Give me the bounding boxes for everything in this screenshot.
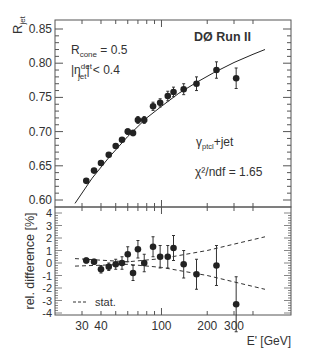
x-axis-label: E' [GeV]: [247, 334, 291, 348]
svg-text:3: 3: [46, 220, 52, 232]
svg-text:0: 0: [46, 257, 52, 269]
svg-text:0.75: 0.75: [29, 90, 53, 104]
svg-text:300: 300: [224, 319, 244, 333]
chi2-annotation: χ²/ndf = 1.65: [195, 165, 263, 179]
svg-text:40: 40: [94, 319, 108, 333]
svg-text:-1: -1: [42, 270, 52, 282]
svg-text:0.80: 0.80: [29, 56, 53, 70]
svg-text:-3: -3: [42, 295, 52, 307]
svg-text:-2: -2: [42, 282, 52, 294]
svg-text:0.85: 0.85: [29, 22, 53, 36]
upper-y-tick-labels: 0.600.650.700.750.800.85: [29, 22, 53, 207]
svg-text:0.65: 0.65: [29, 159, 53, 173]
chart-title: DØ Run II: [194, 30, 251, 44]
lower-y-tick-labels: 43210-1-2-3-4: [42, 207, 52, 319]
upper-y-axis-label: Rjet: [10, 15, 27, 34]
chart-canvas: 0.600.650.700.750.800.85 43210-1-2-3-4 3…: [0, 0, 309, 364]
svg-text:Rjet: Rjet: [10, 15, 27, 34]
rcone-annotation: Rcone = 0.5: [71, 43, 128, 59]
eta-annotation: |ηdetjet| < 0.4: [71, 62, 120, 81]
svg-text:2: 2: [46, 232, 52, 244]
svg-text:100: 100: [151, 319, 171, 333]
x-tick-labels: 3040100200300: [75, 319, 244, 333]
svg-text:0.70: 0.70: [29, 125, 53, 139]
svg-text:200: 200: [197, 319, 217, 333]
lower-data-points: [83, 236, 240, 332]
svg-text:30: 30: [75, 319, 89, 333]
svg-text:0.60: 0.60: [29, 193, 53, 207]
process-annotation: γptcl+jet: [196, 135, 234, 151]
legend-stat-label: stat.: [95, 296, 116, 308]
svg-text:-4: -4: [42, 307, 52, 319]
svg-text:1: 1: [46, 245, 52, 257]
lower-y-axis-label: rel. difference [%]: [23, 212, 37, 309]
svg-text:4: 4: [46, 207, 52, 219]
